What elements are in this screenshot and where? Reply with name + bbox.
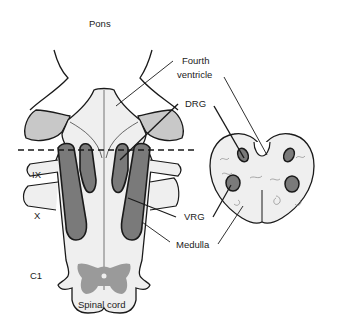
label-pons: Pons — [89, 18, 111, 30]
label-spinal-cord: Spinal cord — [78, 299, 126, 311]
vrg-cross-right — [285, 176, 299, 192]
pons-outline — [30, 50, 68, 110]
pons-outline — [140, 50, 178, 110]
label-vrg: VRG — [184, 211, 205, 223]
leader-medulla-2 — [218, 206, 243, 244]
label-x: X — [34, 210, 40, 222]
nerve-root-x-left — [24, 182, 59, 210]
central-canal — [102, 274, 107, 279]
vrg-cross-left — [226, 175, 240, 191]
label-fourth-ventricle-1: Fourth — [182, 55, 209, 67]
label-c1: C1 — [30, 270, 42, 282]
label-medulla: Medulla — [176, 239, 209, 251]
leader-medulla — [142, 222, 170, 242]
label-ix: IX — [32, 169, 41, 181]
nerve-root-x-right — [150, 178, 179, 210]
label-drg: DRG — [185, 98, 206, 110]
nerve-root-ix-right — [150, 160, 181, 176]
brainstem-diagram — [0, 0, 343, 321]
label-fourth-ventricle-2: ventricle — [177, 69, 212, 81]
